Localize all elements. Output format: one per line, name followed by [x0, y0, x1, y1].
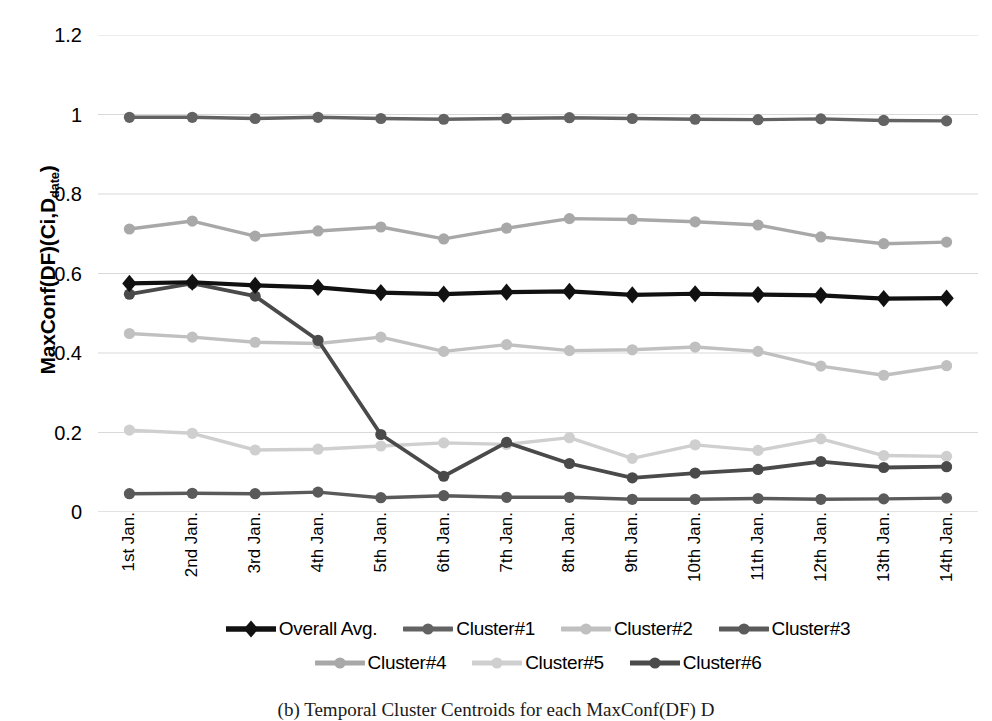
data-point-marker: [492, 657, 503, 668]
y-tick-label: 1: [36, 105, 82, 125]
legend-label: Cluster#2: [614, 618, 693, 640]
data-point-marker: [124, 328, 135, 339]
data-point-marker: [311, 279, 325, 296]
legend-item-cluster-4[interactable]: Cluster#4: [315, 652, 447, 674]
data-point-marker: [562, 283, 576, 300]
data-point-marker: [627, 113, 638, 124]
data-point-marker: [375, 221, 386, 232]
data-point-marker: [690, 467, 701, 478]
x-tick-label: 13th Jan.: [875, 512, 893, 608]
x-tick-label: 6th Jan.: [435, 512, 453, 608]
x-tick-label: 4th Jan.: [309, 512, 327, 608]
data-point-marker: [878, 450, 889, 461]
data-point-marker: [939, 290, 953, 307]
data-point-marker: [878, 370, 889, 381]
legend-swatch-icon: [561, 620, 611, 638]
x-tick-label: 5th Jan.: [372, 512, 390, 608]
data-point-marker: [438, 233, 449, 244]
series-cluster-3: [124, 487, 952, 505]
legend-item-cluster-6[interactable]: Cluster#6: [630, 652, 762, 674]
data-point-marker: [878, 462, 889, 473]
data-point-marker: [501, 492, 512, 503]
data-point-marker: [815, 231, 826, 242]
legend-item-cluster-1[interactable]: Cluster#1: [403, 618, 535, 640]
data-point-marker: [752, 346, 763, 357]
data-point-marker: [501, 437, 512, 448]
data-point-marker: [752, 114, 763, 125]
series-cluster-1: [124, 112, 952, 127]
legend-label: Cluster#3: [772, 618, 851, 640]
data-point-marker: [312, 487, 323, 498]
legend-swatch-icon: [719, 620, 769, 638]
legend-item-overall-avg[interactable]: Overall Avg.: [226, 618, 378, 640]
data-point-marker: [501, 339, 512, 350]
data-point-marker: [438, 471, 449, 482]
legend-label: Cluster#6: [683, 652, 762, 674]
x-tick-label: 12th Jan.: [812, 512, 830, 608]
legend-item-cluster-5[interactable]: Cluster#5: [472, 652, 604, 674]
data-point-marker: [423, 623, 434, 634]
legend-label: Cluster#4: [368, 652, 447, 674]
data-point-marker: [438, 114, 449, 125]
data-point-marker: [438, 490, 449, 501]
data-point-marker: [564, 458, 575, 469]
data-point-marker: [627, 453, 638, 464]
data-point-marker: [437, 286, 451, 303]
data-series-group: [122, 112, 954, 505]
legend-swatch-icon: [226, 620, 276, 638]
data-point-marker: [499, 284, 513, 301]
x-tick-label: 14th Jan.: [938, 512, 956, 608]
data-point-marker: [815, 494, 826, 505]
data-point-marker: [312, 444, 323, 455]
series-cluster-5: [124, 425, 952, 464]
data-point-marker: [564, 213, 575, 224]
data-point-marker: [814, 287, 828, 304]
data-point-marker: [375, 440, 386, 451]
data-point-marker: [438, 346, 449, 357]
data-point-marker: [564, 345, 575, 356]
data-point-marker: [878, 238, 889, 249]
data-point-marker: [877, 290, 891, 307]
data-point-marker: [185, 274, 199, 291]
legend-row: Cluster#4Cluster#5Cluster#6: [98, 646, 978, 680]
data-point-marker: [815, 361, 826, 372]
data-point-marker: [627, 214, 638, 225]
data-point-marker: [187, 215, 198, 226]
data-point-marker: [564, 492, 575, 503]
data-point-marker: [187, 332, 198, 343]
legend-swatch-icon: [315, 654, 365, 672]
plot-area: [98, 35, 978, 512]
data-point-marker: [580, 623, 591, 634]
legend-item-cluster-3[interactable]: Cluster#3: [719, 618, 851, 640]
x-tick-label: 1st Jan.: [120, 512, 138, 608]
data-point-marker: [375, 429, 386, 440]
data-point-marker: [941, 461, 952, 472]
data-point-marker: [250, 113, 261, 124]
legend-item-cluster-2[interactable]: Cluster#2: [561, 618, 693, 640]
data-point-marker: [312, 112, 323, 123]
data-point-marker: [649, 657, 660, 668]
data-point-marker: [627, 472, 638, 483]
data-point-marker: [752, 493, 763, 504]
data-point-marker: [187, 112, 198, 123]
x-axis-ticks: 1st Jan.2nd Jan.3rd Jan.4th Jan.5th Jan.…: [98, 512, 978, 608]
data-point-marker: [187, 488, 198, 499]
y-axis-ticks: 1.210.80.60.40.20: [16, 0, 82, 717]
y-tick-label: 0: [36, 502, 82, 522]
data-point-marker: [941, 360, 952, 371]
data-point-marker: [564, 432, 575, 443]
chart-canvas: [98, 35, 978, 512]
data-point-marker: [374, 284, 388, 301]
data-point-marker: [815, 433, 826, 444]
x-tick-label: 2nd Jan.: [183, 512, 201, 608]
data-point-marker: [187, 428, 198, 439]
data-point-marker: [501, 223, 512, 234]
data-point-marker: [690, 439, 701, 450]
data-point-marker: [250, 337, 261, 348]
data-point-marker: [752, 445, 763, 456]
data-point-marker: [334, 657, 345, 668]
data-point-marker: [815, 113, 826, 124]
data-point-marker: [941, 451, 952, 462]
x-tick-label: 10th Jan.: [686, 512, 704, 608]
